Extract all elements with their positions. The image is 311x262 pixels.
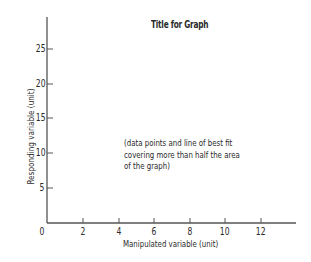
annotation-line: covering more than half the area (124, 149, 240, 161)
chart-annotation: (data points and line of best fit coveri… (124, 137, 240, 172)
x-tick-label: 4 (116, 226, 121, 237)
y-tick-label: 10 (36, 147, 46, 158)
y-axis-label: Responding variable (unit) (25, 69, 36, 205)
y-tick-label: 25 (36, 43, 46, 54)
annotation-line: (data points and line of best fit (124, 137, 240, 149)
chart-axes (0, 0, 311, 262)
x-tick-label: 0 (39, 226, 44, 237)
x-axis-label: Manipulated variable (unit) (123, 238, 218, 249)
x-tick-label: 2 (80, 226, 85, 237)
y-tick-label: 15 (36, 112, 46, 123)
x-tick-label: 12 (256, 226, 266, 237)
y-tick-label: 5 (39, 182, 44, 193)
x-tick-label: 8 (187, 226, 192, 237)
x-tick-label: 6 (151, 226, 156, 237)
annotation-line: of the graph) (124, 160, 240, 172)
y-tick-label: 20 (36, 78, 46, 89)
x-tick-label: 10 (220, 226, 230, 237)
